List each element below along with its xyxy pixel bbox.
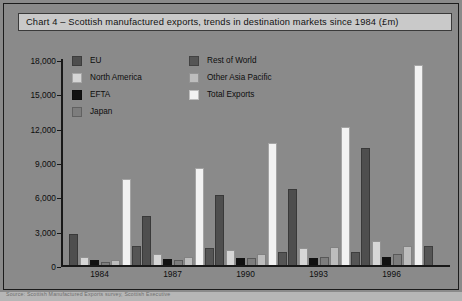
y-tick-label: 0 [13,262,56,272]
bar-1984-north-america[interactable] [80,257,89,265]
bar-1993-other-asia-pacific[interactable] [330,247,339,265]
bar-1996-japan[interactable] [393,254,402,265]
bar-1984-rest-of-world[interactable] [132,246,141,265]
bar-1990-other-asia-pacific[interactable] [257,254,266,265]
x-tick-label-1987: 1987 [163,269,182,279]
bar-1990-total-exports[interactable] [268,143,277,265]
chart-page: Chart 4 – Scottish manufactured exports,… [0,0,462,301]
bar-group-1996 [361,59,435,265]
page-title: Chart 4 – Scottish manufactured exports,… [26,17,399,27]
bar-1993-eu[interactable] [288,189,297,265]
bar-group-1987 [142,59,216,265]
bar-1990-rest-of-world[interactable] [278,252,287,265]
x-tick-label-1996: 1996 [382,269,401,279]
bar-1993-north-america[interactable] [299,248,308,265]
y-tick-label: 9,000 [13,159,56,169]
plot-area: 03,0006,0009,00012,00015,00018,000 19841… [61,59,450,267]
bar-1990-efta[interactable] [236,258,245,265]
source-note: Source: Scottish Manufactured Exports su… [6,292,170,297]
bar-1996-rest-of-world[interactable] [424,246,433,265]
bar-1993-total-exports[interactable] [341,127,350,265]
y-tick-label: 3,000 [13,228,56,238]
y-tick-mark [57,95,61,96]
y-tick-mark [57,164,61,165]
y-tick-label: 18,000 [13,56,56,66]
bar-1987-total-exports[interactable] [195,168,204,265]
x-tick-label-1993: 1993 [309,269,328,279]
bar-1993-rest-of-world[interactable] [351,252,360,265]
y-tick-mark [57,233,61,234]
bar-1990-japan[interactable] [247,258,256,265]
bar-1996-total-exports[interactable] [414,65,423,265]
bar-1984-efta[interactable] [90,260,99,265]
bar-1987-other-asia-pacific[interactable] [184,257,193,265]
bar-1996-efta[interactable] [382,257,391,265]
bar-1996-north-america[interactable] [372,241,381,265]
bar-group-1984 [69,59,143,265]
x-tick-label-1990: 1990 [236,269,255,279]
y-tick-mark [57,267,61,268]
x-axis-line [61,265,450,267]
bar-1984-japan[interactable] [101,262,110,265]
chart-frame: Chart 4 – Scottish manufactured exports,… [3,3,459,290]
y-tick-label: 15,000 [13,90,56,100]
bar-1987-eu[interactable] [142,216,151,265]
bar-1987-japan[interactable] [174,260,183,265]
bar-1984-other-asia-pacific[interactable] [111,260,120,265]
bar-1996-eu[interactable] [361,148,370,265]
bar-1993-efta[interactable] [309,258,318,265]
y-tick-mark [57,61,61,62]
y-tick-label: 12,000 [13,125,56,135]
x-tick-label-1984: 1984 [90,269,109,279]
y-tick-mark [57,198,61,199]
bar-group-1993 [288,59,362,265]
bar-1984-total-exports[interactable] [122,179,131,265]
bar-1987-north-america[interactable] [153,254,162,265]
bar-1990-eu[interactable] [215,195,224,265]
bar-1987-rest-of-world[interactable] [205,248,214,265]
chart-title-bar: Chart 4 – Scottish manufactured exports,… [18,13,452,31]
y-axis-line [61,59,63,267]
bar-1984-eu[interactable] [69,234,78,265]
bar-1987-efta[interactable] [163,259,172,265]
bar-1993-japan[interactable] [320,257,329,265]
bar-group-1990 [215,59,289,265]
bar-1990-north-america[interactable] [226,250,235,265]
source-note-strip: Source: Scottish Manufactured Exports su… [0,292,462,301]
bar-1996-other-asia-pacific[interactable] [403,246,412,265]
y-tick-mark [57,130,61,131]
y-tick-label: 6,000 [13,193,56,203]
